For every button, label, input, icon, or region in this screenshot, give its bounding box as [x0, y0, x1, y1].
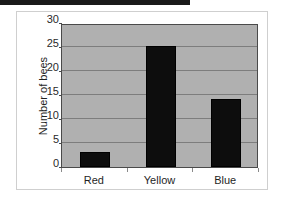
y-axis-tick-label: 5	[37, 133, 59, 144]
y-axis-tick-labels: 051015202530	[33, 24, 59, 168]
y-axis-tick-label: 25	[37, 37, 59, 48]
y-axis-tick-label: 30	[37, 13, 59, 24]
chart-frame: Number of bees 051015202530 RedYellowBlu…	[16, 11, 268, 190]
bar-yellow	[146, 46, 176, 167]
y-axis-tick-label: 10	[37, 109, 59, 120]
x-axis-label-blue: Blue	[192, 172, 258, 188]
bar-red	[80, 152, 110, 167]
x-axis-label-yellow: Yellow	[127, 172, 193, 188]
plot-area	[61, 24, 258, 168]
x-axis-tick-labels: RedYellowBlue	[61, 172, 258, 188]
y-axis-tick-label: 0	[37, 157, 59, 168]
x-axis-tick-mark	[258, 168, 259, 172]
y-axis-tick-label: 20	[37, 61, 59, 72]
top-black-bar	[0, 0, 190, 5]
x-axis-label-red: Red	[61, 172, 127, 188]
y-axis-tick-label: 15	[37, 85, 59, 96]
bar-blue	[211, 99, 241, 167]
